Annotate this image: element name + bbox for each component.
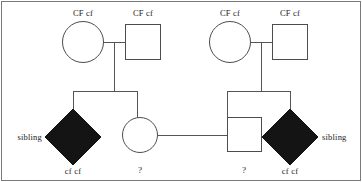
g1-right-mother-circle: [210, 22, 251, 63]
g2-right-affected-diamond: [262, 109, 318, 165]
g2-right-square: [228, 118, 262, 152]
g2-left-circle-genotype-label: ?: [138, 166, 142, 175]
g2-right-affected-genotype-label: cf cf: [282, 167, 298, 176]
g1-right-father-square: [273, 25, 308, 60]
g1-right-father-genotype-label: CF cf: [280, 9, 300, 18]
g2-right-sibling-side-label: sibling: [322, 133, 347, 142]
g2-left-sibling-side-label: sibling: [17, 133, 42, 142]
g1-right-mother-genotype-label: CF cf: [220, 9, 240, 18]
g2-left-affected-genotype-label: cf cf: [65, 167, 81, 176]
g1-left-mother-circle: [63, 22, 104, 63]
g2-left-circle: [123, 118, 158, 153]
g1-left-father-square: [126, 25, 161, 60]
g1-left-mother-genotype-label: CF cf: [73, 9, 93, 18]
g2-right-square-genotype-label: ?: [242, 166, 246, 175]
pedigree-figure: CF cf CF cf CF cf CF cf sibling cf cf ? …: [0, 0, 362, 182]
g1-left-father-genotype-label: CF cf: [133, 9, 153, 18]
g2-left-affected-diamond: [45, 109, 101, 165]
pedigree-diagram: [0, 0, 362, 182]
